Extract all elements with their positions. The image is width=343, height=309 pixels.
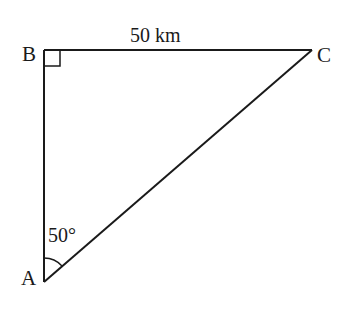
side-ac (44, 50, 312, 282)
vertex-label-c: C (317, 43, 331, 67)
side-bc-length-label: 50 km (130, 24, 181, 46)
vertex-label-a: A (21, 266, 37, 290)
angle-arc-a (44, 258, 62, 266)
angle-a-label: 50° (48, 224, 76, 246)
triangle-diagram: B C A 50 km 50° (0, 0, 343, 309)
right-angle-marker (44, 50, 60, 66)
vertex-label-b: B (22, 42, 36, 66)
